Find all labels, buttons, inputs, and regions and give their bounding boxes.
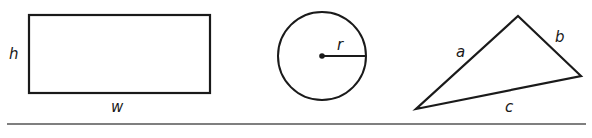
- shapes-diagram: h w r a b c: [0, 0, 592, 138]
- triangle-side-a-label: a: [456, 43, 465, 61]
- triangle-side-b-label: b: [555, 28, 565, 46]
- circle-center-dot: [319, 53, 325, 59]
- circle-radius-label: r: [337, 36, 344, 54]
- rectangle-shape: [29, 15, 210, 93]
- triangle-figure: a b c: [416, 16, 581, 116]
- rectangle-figure: h w: [9, 15, 210, 116]
- circle-figure: r: [278, 12, 366, 100]
- rectangle-width-label: w: [111, 98, 124, 116]
- rectangle-height-label: h: [9, 45, 19, 63]
- triangle-side-c-label: c: [505, 98, 514, 116]
